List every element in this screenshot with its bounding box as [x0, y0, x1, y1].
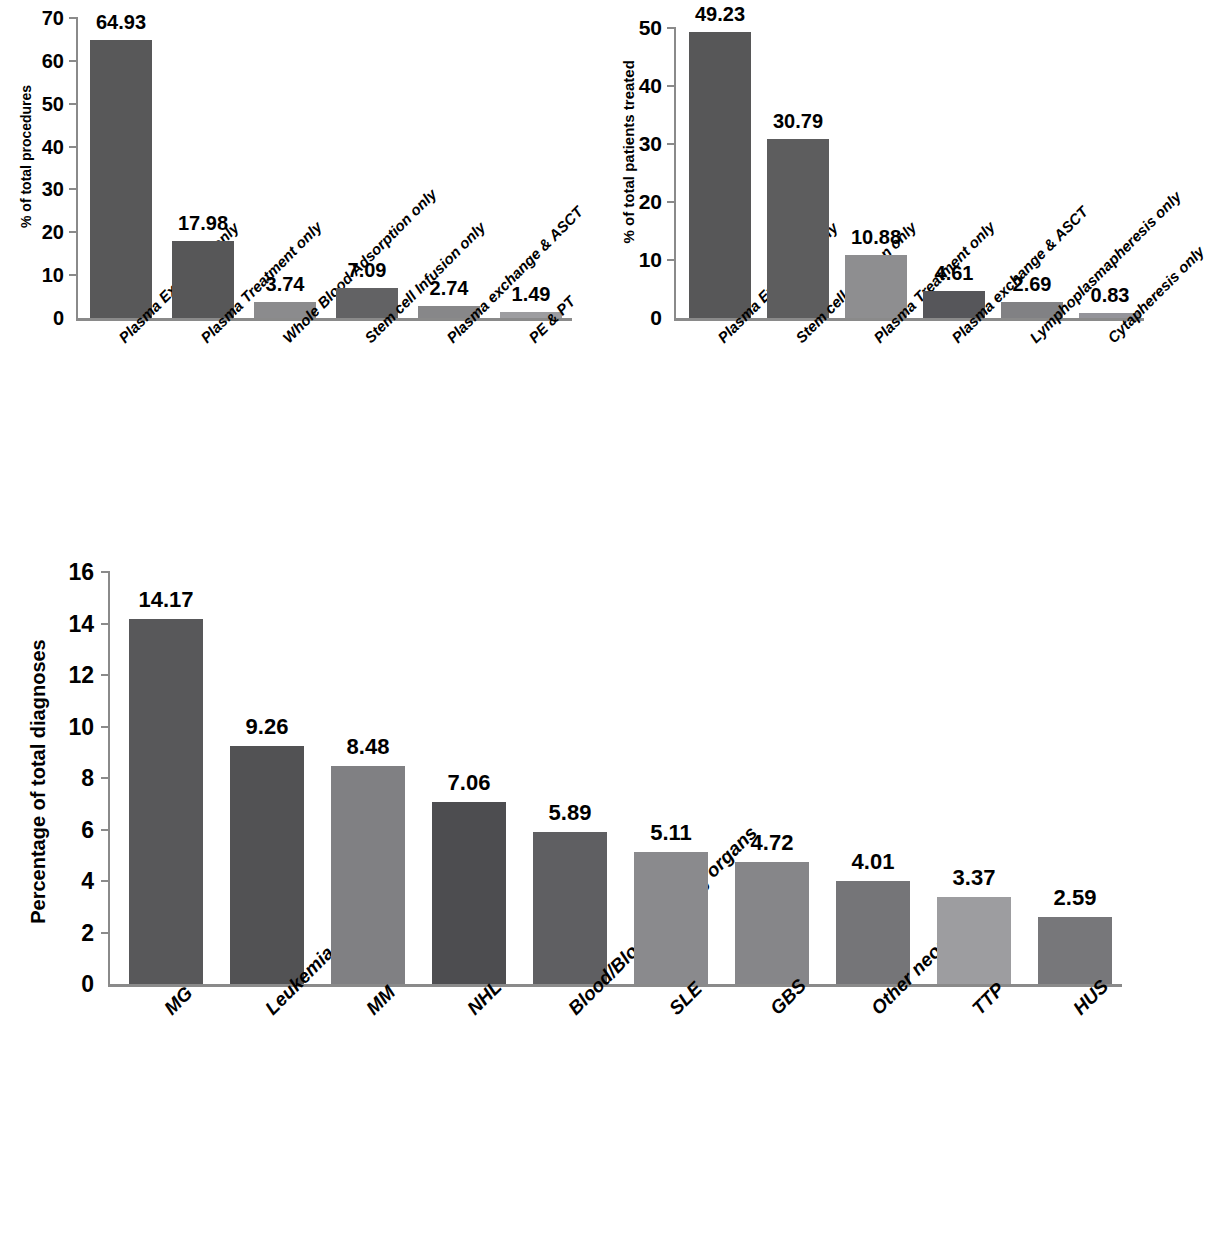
- y-tick-label: 6: [81, 816, 94, 843]
- y-tick-label: 20: [42, 221, 64, 244]
- chart2-y-tick-labels: 01020304050: [618, 28, 662, 318]
- bar-value-label: 30.79: [773, 110, 823, 133]
- bar-value-label: 5.89: [549, 800, 592, 826]
- y-tick-label: 50: [639, 16, 662, 40]
- bar: [230, 746, 304, 984]
- bar: [533, 832, 607, 984]
- bar: [1038, 917, 1112, 984]
- y-tick-label: 16: [68, 559, 94, 586]
- chart3-plot-area: 14.17MG9.26Leukemia8.48MM7.06NHL5.89Bloo…: [110, 572, 1120, 984]
- bar-value-label: 5.11: [650, 820, 692, 846]
- y-axis-line: [76, 18, 78, 318]
- y-tick-label: 12: [68, 662, 94, 689]
- bar: [331, 766, 405, 984]
- chart-diagnoses: Percentage of total diagnoses 0246810121…: [0, 552, 1153, 1235]
- bar: [90, 40, 152, 318]
- bar: [129, 619, 203, 984]
- bar-value-label: 14.17: [138, 587, 193, 613]
- bar: [767, 139, 829, 318]
- x-axis-line: [108, 984, 1122, 987]
- x-axis-category-label: Plasma exchange & ASCT: [443, 203, 586, 346]
- y-tick-label: 2: [81, 919, 94, 946]
- bar-value-label: 1.49: [512, 283, 551, 306]
- bar-value-label: 4.01: [852, 849, 895, 875]
- bar: [937, 897, 1011, 984]
- y-tick-label: 40: [42, 135, 64, 158]
- y-axis-line: [108, 572, 110, 984]
- chart2-plot-area: 49.23Plasma Exchange only30.79Stem cell …: [676, 28, 1142, 318]
- bar: [432, 802, 506, 984]
- x-axis-category-label: MG: [160, 982, 197, 1019]
- bar-value-label: 0.83: [1091, 284, 1130, 307]
- y-tick-label: 0: [53, 307, 64, 330]
- y-axis-line: [674, 28, 676, 318]
- y-tick-label: 0: [81, 971, 94, 998]
- bar-value-label: 2.59: [1054, 885, 1097, 911]
- bar: [689, 32, 751, 318]
- bar-value-label: 64.93: [96, 11, 146, 34]
- x-axis-category-label: Lymphoplasmapheresis only: [1026, 188, 1184, 346]
- bar-value-label: 49.23: [695, 3, 745, 26]
- y-tick-label: 40: [639, 74, 662, 98]
- bar-value-label: 17.98: [178, 212, 228, 235]
- chart1-y-tick-labels: 010203040506070: [18, 18, 64, 318]
- y-tick-label: 10: [68, 713, 94, 740]
- y-tick-label: 20: [639, 190, 662, 214]
- bar-value-label: 7.09: [348, 259, 387, 282]
- x-axis-category-label: MM: [362, 982, 400, 1020]
- chart-patients-treated: % of total patients treated 01020304050 …: [600, 0, 1153, 520]
- bar: [634, 852, 708, 984]
- y-tick-label: 10: [639, 248, 662, 272]
- bar-value-label: 10.88: [851, 226, 901, 249]
- y-tick-label: 0: [650, 306, 662, 330]
- y-tick-label: 70: [42, 7, 64, 30]
- bar-value-label: 2.74: [430, 277, 469, 300]
- chart3-y-tick-labels: 0246810121416: [38, 572, 94, 984]
- chart1-plot-area: 64.93Plasma Exchange only17.98Plasma Tre…: [78, 18, 570, 318]
- bar-value-label: 3.74: [266, 273, 305, 296]
- bar-value-label: 7.06: [448, 770, 491, 796]
- bar-value-label: 8.48: [347, 734, 390, 760]
- bar: [836, 881, 910, 984]
- bar-value-label: 4.61: [935, 262, 974, 285]
- y-tick-label: 4: [81, 868, 94, 895]
- y-tick-label: 50: [42, 92, 64, 115]
- y-tick-label: 30: [639, 132, 662, 156]
- bar-value-label: 3.37: [953, 865, 996, 891]
- y-tick-label: 8: [81, 765, 94, 792]
- bar: [735, 862, 809, 984]
- chart-procedures: % of total procedures 010203040506070 64…: [0, 0, 580, 520]
- bar-value-label: 4.72: [751, 830, 794, 856]
- bar-value-label: 9.26: [246, 714, 289, 740]
- y-tick-label: 10: [42, 264, 64, 287]
- bar-value-label: 2.69: [1013, 273, 1052, 296]
- y-tick-label: 30: [42, 178, 64, 201]
- y-tick-label: 14: [68, 610, 94, 637]
- y-tick-label: 60: [42, 49, 64, 72]
